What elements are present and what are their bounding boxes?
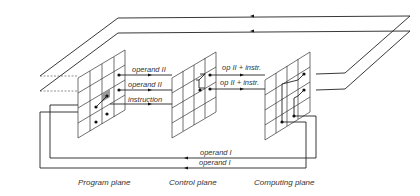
control-plane bbox=[172, 52, 216, 138]
arrow-operand1-top bbox=[184, 157, 188, 160]
computing-plane bbox=[40, 52, 316, 168]
label-operand2-mid: operand II bbox=[128, 80, 162, 89]
plane-diagram: operand II operand II instruction op II … bbox=[0, 0, 420, 196]
label-op2instr-top: op II + instr. bbox=[222, 63, 261, 72]
label-operand1-bottom: operand I bbox=[199, 158, 231, 167]
wire-op2instr-top bbox=[210, 74, 265, 77]
wire-op2instr-mid bbox=[210, 88, 265, 91]
label-operand2-top: operand II bbox=[132, 65, 166, 74]
caption-computing-plane: Computing plane bbox=[254, 178, 315, 187]
program-plane bbox=[78, 50, 125, 138]
label-operand1-top: operand I bbox=[200, 148, 232, 157]
caption-control-plane: Control plane bbox=[169, 178, 217, 187]
caption-program-plane: Program plane bbox=[78, 178, 131, 187]
arrow-operand1-bottom bbox=[184, 167, 188, 170]
label-instruction: instruction bbox=[128, 95, 162, 104]
label-op2instr-mid: op II + instr. bbox=[220, 78, 259, 87]
